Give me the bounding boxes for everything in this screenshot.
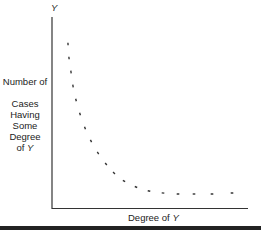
curve-dot [97, 152, 98, 154]
y-axis-top-label: Y [51, 2, 57, 13]
figure: Y Number of Cases Having Some Degree of … [0, 0, 261, 233]
curve-dot [135, 187, 137, 188]
curve-dot [76, 99, 77, 102]
x-axis-label-prefix: Degree of [128, 212, 172, 223]
curve-dot [90, 140, 91, 142]
curve-dot [105, 163, 107, 165]
curve-dot [113, 172, 115, 174]
dotted-curve [68, 43, 233, 194]
x-axis-label-var: Y [172, 212, 178, 223]
curve-dot [148, 191, 151, 192]
y-axis-label-line2: Cases Having [0, 98, 50, 120]
y-axis-label-line1: Number of [0, 76, 50, 87]
y-axis-label-line4: of Y [0, 142, 50, 153]
curve-dot [123, 180, 125, 181]
bottom-rule-divider [0, 226, 261, 230]
x-axis-label: Degree of Y [128, 212, 179, 223]
curve-dot [80, 113, 81, 115]
y-axis-label-var: Y [27, 142, 33, 153]
y-axis-label-prefix: of [17, 142, 28, 153]
curve-dot [85, 127, 86, 129]
y-axis-label-line3: Some Degree [0, 120, 50, 142]
